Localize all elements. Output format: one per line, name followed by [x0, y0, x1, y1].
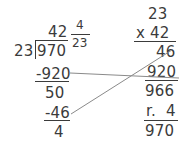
- connector-46-line: [71, 50, 172, 114]
- connector-920-line: [70, 73, 179, 78]
- long-division-worksheet: 23 970 42 4 23 -920 50 -46 4 23 x 42 46 …: [0, 0, 189, 152]
- connector-lines-group: [0, 0, 189, 152]
